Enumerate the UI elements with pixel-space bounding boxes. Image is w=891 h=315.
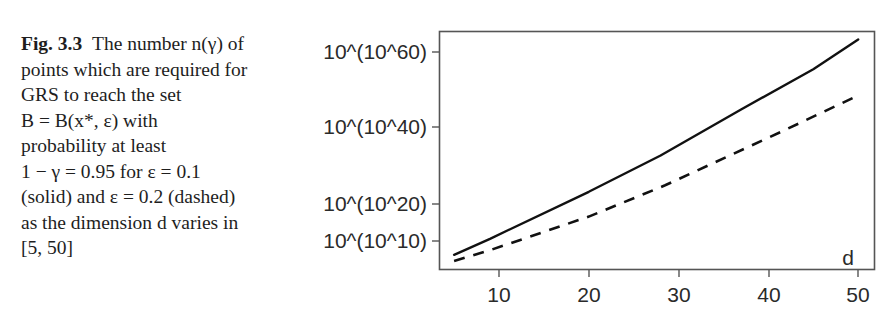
line-chart: 10^(10^60) 10^(10^40) 10^(10^20) 10^(10^… <box>0 0 891 315</box>
y-tick-label: 10^(10^20) <box>323 192 427 215</box>
x-axis-label: d <box>842 246 854 269</box>
x-tick-label: 20 <box>577 283 600 306</box>
x-tick-label: 10 <box>487 283 510 306</box>
x-tick-label: 30 <box>667 283 690 306</box>
y-tick-label: 10^(10^40) <box>323 115 427 138</box>
plot-frame <box>440 32 875 270</box>
x-tick-label: 50 <box>846 283 869 306</box>
series-line-solid <box>454 39 858 254</box>
series-line-dashed <box>454 96 858 261</box>
x-axis <box>499 270 858 277</box>
y-tick-label: 10^(10^10) <box>323 229 427 252</box>
y-axis <box>432 52 439 241</box>
y-tick-label: 10^(10^60) <box>323 40 427 63</box>
x-tick-label: 40 <box>757 283 780 306</box>
